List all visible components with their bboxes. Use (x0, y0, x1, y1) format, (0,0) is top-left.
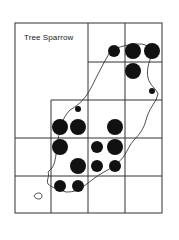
record-dot-medium (72, 180, 84, 192)
record-dot-medium (109, 160, 121, 172)
record-dot-large (125, 43, 141, 59)
record-dot-large (144, 43, 160, 59)
map-title: Tree Sparrow (24, 33, 73, 42)
record-dot-small (149, 88, 155, 94)
record-dot-medium (91, 160, 103, 172)
record-dot-large (125, 63, 141, 79)
record-dot-medium (91, 141, 103, 153)
record-dot-large (70, 158, 86, 174)
record-dots (52, 43, 160, 192)
record-dot-large (107, 119, 123, 135)
record-dot-large (52, 139, 68, 155)
record-dot-large (70, 119, 86, 135)
islet-outline (34, 193, 42, 199)
record-dot-small (75, 106, 81, 112)
record-dot-large (107, 139, 123, 155)
record-dot-medium (108, 45, 120, 57)
record-dot-large (52, 119, 68, 135)
record-dot-medium (54, 180, 66, 192)
coastline (47, 44, 158, 192)
